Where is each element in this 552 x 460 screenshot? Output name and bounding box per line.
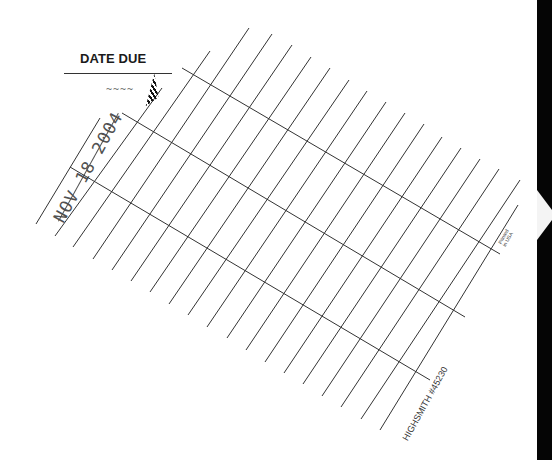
grid-column-line: [284, 137, 442, 373]
grid-row-line: [70, 167, 430, 380]
grid-column-line: [341, 169, 499, 407]
title-underline: [64, 73, 172, 74]
due-date-grid: [0, 0, 552, 460]
grid-column-line: [207, 91, 367, 327]
grid-column-line: [227, 102, 386, 338]
partial-date-stamp: ~~~~: [106, 84, 134, 95]
grid-column-line: [169, 68, 330, 304]
grid-column-line: [303, 148, 461, 384]
grid-column-line: [246, 113, 405, 350]
grid-column-line: [188, 80, 349, 315]
card-title: DATE DUE: [80, 51, 146, 66]
grid-column-line: [322, 159, 480, 396]
grid-column-line: [150, 57, 311, 292]
grid-column-line: [265, 124, 424, 362]
date-due-card: DATE DUE ~~~~ NOV 18 2004 Printed in USA…: [0, 0, 552, 460]
grid-column-line: [112, 34, 272, 270]
grid-row-line: [122, 113, 465, 317]
